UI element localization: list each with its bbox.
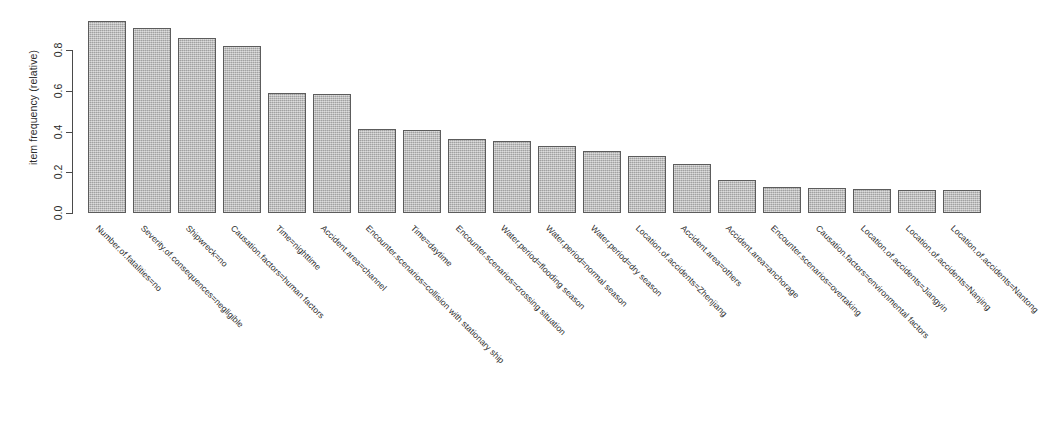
x-axis-tick-label: Causation.factors=human factors [229, 223, 327, 321]
x-axis-tick-label: Location.of.accidents=Nantong [949, 223, 1041, 315]
bar [628, 156, 666, 213]
x-axis-labels: Number.of.fatalities=noSeverity.of.conse… [0, 219, 986, 419]
bar [133, 28, 171, 213]
x-axis-tick-label: Time=daytime [409, 223, 455, 269]
x-axis-tick-label: Location.of.accidents=Zhenjiang [634, 223, 730, 319]
bar [538, 146, 576, 213]
bar [673, 164, 711, 213]
bar [88, 21, 126, 213]
bar [178, 38, 216, 213]
bar [268, 93, 306, 213]
bar [853, 189, 891, 213]
bar [493, 141, 531, 213]
bar [403, 130, 441, 213]
bar [808, 188, 846, 213]
plot-area [0, 0, 986, 213]
x-axis-tick-label: Water.period=flooding season [499, 223, 587, 311]
bar [763, 187, 801, 213]
bar [898, 190, 936, 213]
bar [313, 94, 351, 213]
x-axis-tick-label: Time=nighttime [274, 223, 323, 272]
x-axis-tick-label: Encounter.scenarios=overtaking [769, 223, 864, 318]
bar [223, 46, 261, 213]
bar [718, 180, 756, 213]
x-axis-tick-label: Water.period=normal season [544, 223, 630, 309]
x-axis-tick-label: Location.of.accidents=Jiangyin [859, 223, 950, 314]
bar [448, 139, 486, 213]
bar [583, 151, 621, 213]
bar [358, 129, 396, 213]
x-axis-tick-label: Shipwreck=no [184, 223, 230, 269]
x-axis-tick-label: Location.of.accidents=Nanjing [904, 223, 993, 312]
y-axis-tick [66, 213, 73, 214]
x-axis-tick-label: Accident.area=anchorage [724, 223, 801, 300]
bar [943, 190, 981, 213]
